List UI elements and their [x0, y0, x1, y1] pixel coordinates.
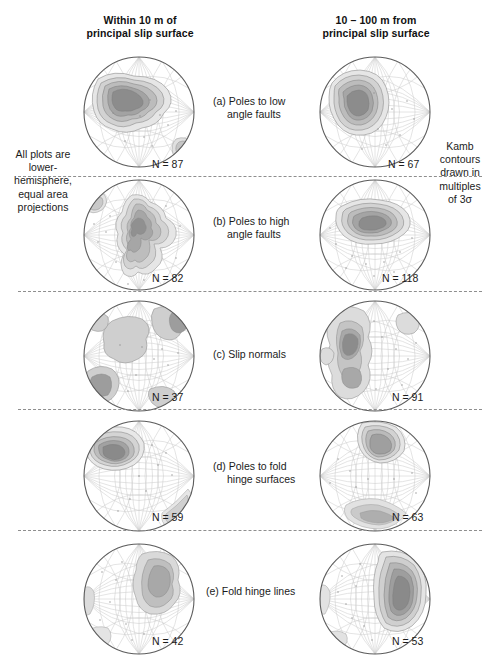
note-projection-line-0: All plots are	[2, 148, 84, 161]
n-label-d-right: N = 63	[392, 511, 423, 523]
row-label-c-line1: (c) Slip normals	[213, 348, 313, 361]
n-label-c-left: N = 37	[152, 391, 183, 403]
row-label-a-line1: (a) Poles to low	[213, 95, 308, 108]
n-label-d-left: N = 59	[152, 511, 183, 523]
row-divider-d	[18, 530, 482, 531]
note-contours-line-0: Kamb	[424, 140, 496, 153]
n-label-e-right: N = 53	[392, 635, 423, 647]
row-label-b-line2: angle faults	[213, 228, 308, 241]
n-label-e-left: N = 42	[152, 635, 183, 647]
note-contours-line-3: multiples	[424, 180, 496, 193]
n-label-b-left: N = 82	[152, 272, 183, 284]
note-projection-line-3: equal area	[2, 188, 84, 201]
note-contours: Kamb contours drawn in multiples of 3σ	[424, 140, 496, 206]
note-contours-line-2: drawn in	[424, 166, 496, 179]
row-label-a-line2: angle faults	[213, 108, 308, 121]
column-header-left-line1: Within 10 m of	[52, 14, 228, 27]
row-label-b-line1: (b) Poles to high	[213, 215, 308, 228]
column-header-right-line2: principal slip surface	[288, 27, 464, 40]
note-projection: All plots are lower- hemisphere, equal a…	[2, 148, 84, 214]
row-label-b: (b) Poles to high angle faults	[213, 215, 308, 241]
note-projection-line-1: lower-	[2, 161, 84, 174]
note-contours-line-4: of 3σ	[424, 193, 496, 206]
n-label-b-right: N = 118	[382, 272, 418, 284]
row-divider-c	[18, 409, 482, 410]
row-label-d-line2: hinge surfaces	[213, 473, 313, 486]
row-label-c: (c) Slip normals	[213, 348, 313, 361]
n-label-a-left: N = 87	[152, 158, 183, 170]
stereonet-figure: Within 10 m of principal slip surface 10…	[0, 0, 500, 668]
column-header-left-line2: principal slip surface	[52, 27, 228, 40]
note-projection-line-4: projections	[2, 201, 84, 214]
row-label-e: (e) Fold hinge lines	[206, 585, 321, 598]
stereonet-a-left	[80, 53, 198, 171]
column-header-right-line1: 10 – 100 m from	[288, 14, 464, 27]
n-label-a-right: N = 67	[388, 158, 419, 170]
column-header-left: Within 10 m of principal slip surface	[52, 14, 228, 40]
note-contours-line-1: contours	[424, 153, 496, 166]
row-divider-b	[18, 291, 482, 292]
column-header-right: 10 – 100 m from principal slip surface	[288, 14, 464, 40]
stereonet-a-right	[316, 53, 434, 171]
row-label-e-line1: (e) Fold hinge lines	[206, 585, 321, 598]
row-label-a: (a) Poles to low angle faults	[213, 95, 308, 121]
n-label-c-right: N = 91	[392, 391, 423, 403]
row-label-d-line1: (d) Poles to fold	[213, 460, 313, 473]
row-label-d: (d) Poles to fold hinge surfaces	[213, 460, 313, 486]
